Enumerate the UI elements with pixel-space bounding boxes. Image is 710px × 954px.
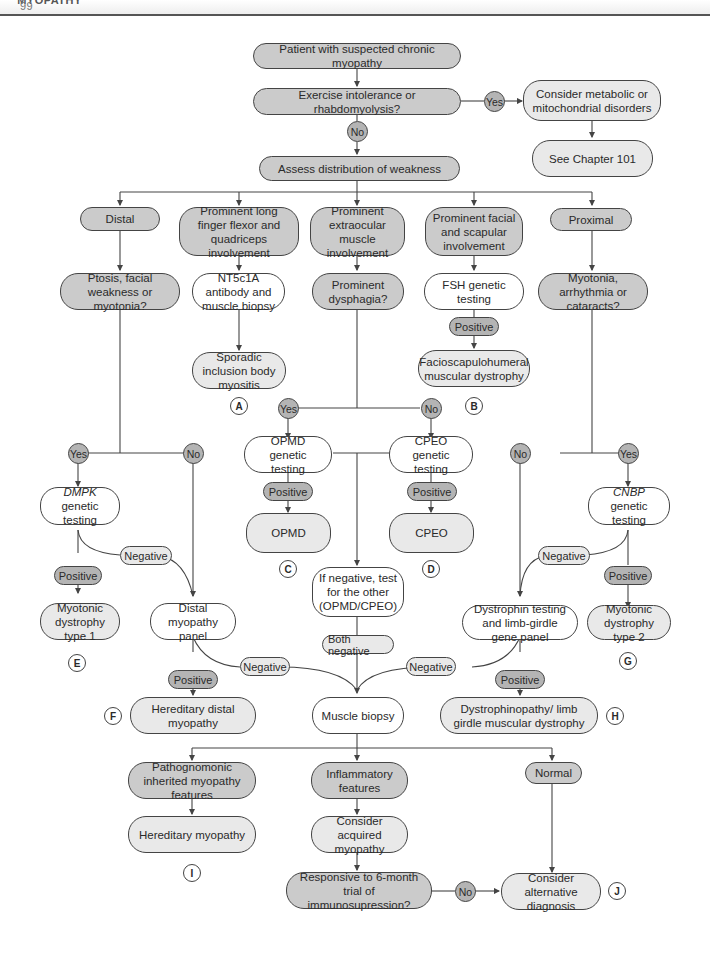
- node-text: Consider metabolic or mitochondrial diso…: [530, 87, 654, 115]
- node-fshd: Facioscapulohumeral muscular dystrophy: [418, 350, 530, 387]
- edge-text: Yes: [70, 448, 87, 460]
- edge-positive-cnbp: Positive: [604, 566, 652, 585]
- node-text: Consider acquired myopathy: [318, 814, 401, 856]
- node-exercise-intolerance: Exercise intolerance or rhabdomyolysis?: [253, 88, 461, 115]
- node-responsive-question: Responsive to 6-month trial of immunosup…: [286, 872, 432, 909]
- edge-positive-opmd: Positive: [263, 482, 313, 501]
- node-long-finger: Prominent long finger flexor and quadric…: [179, 207, 299, 256]
- node-text: Dystrophin testing and limb-girdle gene …: [469, 602, 571, 644]
- node-sibm: Sporadic inclusion body myositis: [192, 352, 286, 389]
- edge-negative-cnbp: Negative: [538, 546, 590, 565]
- node-text: Hereditary myopathy: [139, 828, 245, 842]
- node-text: Myotonic dystrophy type 1: [47, 601, 113, 643]
- gene-name: DMPK: [63, 486, 96, 498]
- marker-text: G: [624, 656, 632, 667]
- node-inflammatory: Inflammatory features: [311, 762, 408, 799]
- node-hereditary-distal: Hereditary distal myopathy: [130, 697, 256, 734]
- node-text: Myotonia, arrhythmia or cataracts?: [545, 271, 641, 313]
- edge-text: Negative: [542, 550, 585, 562]
- node-text: Proximal: [569, 213, 614, 227]
- node-distal-panel: Distal myopathy panel: [150, 603, 236, 640]
- node-facial-scapular: Prominent facial and scapular involvemen…: [425, 207, 523, 256]
- node-text: Consider alternative diagnosis: [508, 871, 594, 913]
- node-text: Prominent dysphagia?: [319, 278, 397, 306]
- edge-text: Negative: [409, 661, 452, 673]
- node-start: Patient with suspected chronic myopathy: [253, 43, 461, 69]
- node-text-rest: genetic testing: [61, 500, 98, 526]
- node-opmd-testing: OPMD genetic testing: [244, 436, 332, 473]
- node-normal: Normal: [525, 762, 582, 784]
- node-text: NT5c1A antibody and muscle biopsy: [199, 271, 278, 313]
- node-extraocular: Prominent extraocular muscle involvement: [310, 207, 405, 256]
- node-text: Facioscapulohumeral muscular dystrophy: [419, 355, 528, 383]
- node-assess-distribution: Assess distribution of weakness: [259, 156, 460, 181]
- edge-text: Yes: [486, 96, 503, 108]
- node-text-rest: genetic testing: [610, 500, 647, 526]
- node-text: Pathognomonic inherited myopathy feature…: [135, 760, 249, 802]
- node-metabolic: Consider metabolic or mitochondrial diso…: [523, 80, 661, 121]
- node-text: OPMD: [271, 526, 306, 540]
- marker-h: H: [606, 707, 624, 725]
- edge-text: Positive: [174, 674, 213, 686]
- edge-text: Positive: [609, 570, 648, 582]
- edge-no-responsive: No: [455, 881, 476, 902]
- node-text: Assess distribution of weakness: [278, 162, 441, 176]
- edge-text: Both negative: [328, 633, 388, 657]
- edge-positive-dystrophin: Positive: [495, 670, 545, 689]
- node-text: Distal: [106, 212, 135, 226]
- edge-text: Negative: [124, 550, 167, 562]
- edge-positive-fsh: Positive: [449, 317, 499, 336]
- node-hereditary-myopathy: Hereditary myopathy: [128, 816, 256, 853]
- edge-text: Positive: [455, 321, 494, 333]
- marker-text: J: [614, 886, 620, 897]
- marker-text: C: [284, 564, 291, 575]
- edge-text: No: [514, 448, 527, 460]
- node-text: CNBP genetic testing: [595, 485, 663, 527]
- marker-j: J: [608, 882, 626, 900]
- edge-text: Positive: [413, 486, 452, 498]
- edge-text: Negative: [243, 661, 286, 673]
- edge-yes-myotonia: Yes: [618, 443, 639, 464]
- node-see-chapter: See Chapter 101: [532, 140, 653, 177]
- node-text: Ptosis, facial weakness or myotonia?: [67, 271, 173, 313]
- edge-text: Positive: [59, 570, 98, 582]
- node-dystrophinopathy: Dystrophinopathy/ limb girdle muscular d…: [440, 697, 598, 734]
- node-text: If negative, test for the other (OPMD/CP…: [319, 571, 397, 613]
- marker-text: A: [235, 401, 242, 412]
- edge-text: Yes: [620, 448, 637, 460]
- marker-text: D: [427, 564, 434, 575]
- node-fsh-testing: FSH genetic testing: [424, 273, 524, 310]
- node-cpeo: CPEO: [389, 513, 474, 553]
- edge-no-exercise: No: [347, 121, 368, 142]
- edge-no-ptosis: No: [183, 443, 204, 464]
- marker-i: I: [183, 864, 201, 882]
- node-text: OPMD genetic testing: [251, 434, 325, 476]
- node-ptosis-question: Ptosis, facial weakness or myotonia?: [60, 273, 180, 310]
- node-text: Inflammatory features: [318, 767, 401, 795]
- node-text: FSH genetic testing: [431, 278, 517, 306]
- edge-negative-dystrophin: Negative: [406, 657, 456, 676]
- edge-yes-dysphagia: Yes: [278, 398, 299, 419]
- marker-a: A: [230, 397, 248, 415]
- edge-yes-exercise: Yes: [484, 91, 505, 112]
- node-text: Prominent facial and scapular involvemen…: [432, 211, 516, 253]
- edge-text: No: [351, 126, 364, 138]
- node-text: Patient with suspected chronic myopathy: [260, 42, 454, 70]
- marker-f: F: [104, 707, 122, 725]
- marker-b: B: [465, 397, 483, 415]
- edge-text: Positive: [501, 674, 540, 686]
- node-text: Prominent extraocular muscle involvement: [317, 204, 398, 260]
- node-text: DMPK genetic testing: [47, 485, 113, 527]
- node-myotonia-question: Myotonia, arrhythmia or cataracts?: [538, 273, 648, 310]
- marker-text: H: [611, 711, 618, 722]
- marker-g: G: [619, 652, 637, 670]
- edge-text: No: [425, 403, 438, 415]
- marker-text: F: [110, 711, 116, 722]
- node-text: Distal myopathy panel: [157, 601, 229, 643]
- node-text: Myotonic dystrophy type 2: [594, 602, 664, 644]
- node-text: Exercise intolerance or rhabdomyolysis?: [260, 88, 454, 116]
- node-text: Sporadic inclusion body myositis: [199, 350, 279, 392]
- node-text: CPEO: [415, 526, 448, 540]
- node-alternative: Consider alternative diagnosis: [501, 873, 601, 910]
- node-dmpk-testing: DMPK genetic testing: [40, 487, 120, 525]
